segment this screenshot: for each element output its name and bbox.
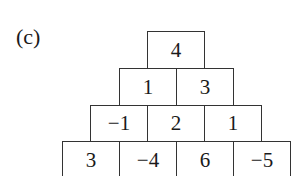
pyramid-cell-r3-c0: 3 (62, 141, 120, 176)
pyramid-cell-r2-c2: 1 (204, 105, 262, 142)
pyramid-cell-r3-c2: 6 (176, 141, 234, 176)
pyramid-cell-r3-c1: −4 (119, 141, 177, 176)
pyramid-cell-r1-c1: 3 (176, 68, 234, 106)
pyramid-cell-r0-c0: 4 (147, 31, 205, 69)
pyramid-cell-r2-c0: −1 (90, 105, 148, 142)
pyramid-cell-r2-c1: 2 (147, 105, 205, 142)
figure-label: (c) (16, 24, 40, 50)
pyramid-cell-r1-c0: 1 (119, 68, 177, 106)
pyramid-cell-r3-c3: −5 (233, 141, 291, 176)
